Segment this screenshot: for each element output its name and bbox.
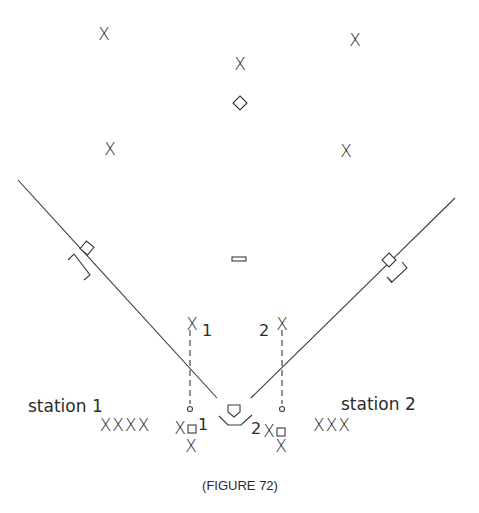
fungo-left-number: 1	[202, 321, 212, 340]
pitchers-rubber-icon	[232, 257, 246, 261]
station-2-label: station 2	[341, 394, 416, 414]
hitter-right: X	[275, 436, 287, 456]
ball-right-icon	[280, 407, 285, 412]
station-2-players: XXX	[313, 415, 351, 435]
fielder-right-field: X	[349, 30, 361, 50]
batters-box-icon	[219, 415, 252, 425]
plate-left-number: 1	[198, 415, 208, 434]
station-1-players: XXXX	[100, 415, 151, 435]
fielder-shortstop: X	[104, 139, 116, 159]
figure-caption: (FIGURE 72)	[202, 478, 278, 493]
baseball-drill-diagram: X X X X X X 1 X 2 station 1 XXXX	[0, 0, 479, 513]
plate-right-number: 2	[251, 419, 261, 438]
plate-right-icon	[277, 428, 285, 436]
right-foul-line	[251, 198, 455, 398]
third-base-coach-box-icon	[68, 254, 90, 280]
second-base-icon	[233, 96, 247, 110]
plate-left-icon	[188, 425, 196, 433]
fielder-second-base: X	[340, 141, 352, 161]
hitter-left: X	[185, 436, 197, 456]
station-1-label: station 1	[28, 396, 103, 416]
fielder-left-field: X	[98, 24, 110, 44]
home-plate-icon	[228, 405, 240, 417]
third-base-icon	[79, 240, 94, 255]
catcher-left: X	[174, 418, 186, 438]
catcher-right: X	[263, 421, 275, 441]
fungo-hitter-left: X	[186, 314, 198, 334]
fielder-center-field: X	[234, 54, 246, 74]
fungo-right-number: 2	[259, 321, 269, 340]
ball-left-icon	[188, 407, 193, 412]
left-foul-line	[18, 180, 217, 398]
first-base-icon	[382, 253, 396, 267]
